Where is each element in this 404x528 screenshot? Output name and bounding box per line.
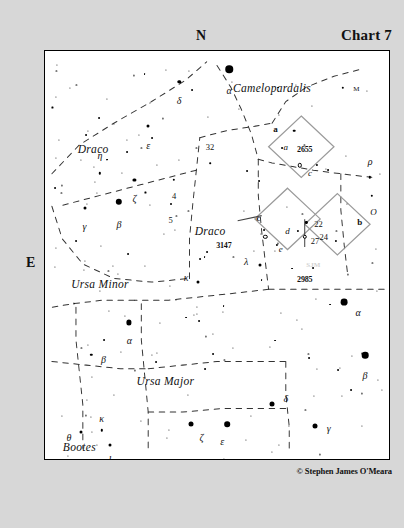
background-star (155, 362, 157, 364)
chart-vector-layer (45, 51, 389, 459)
background-star (106, 159, 108, 161)
detail-field-label-b: b (357, 217, 362, 227)
star-marker-13 (259, 264, 262, 267)
constellation-label-camelopardalis-1: Camelopardalis (233, 82, 311, 94)
star-label-19: ε (220, 435, 224, 446)
constellation-boundary-3 (189, 138, 199, 279)
background-star (191, 89, 193, 91)
field-star-label-2: e (279, 244, 283, 254)
star-marker-20 (313, 424, 318, 429)
constellation-boundary-8 (52, 300, 135, 307)
background-star (263, 229, 265, 231)
star-label-22: θ (67, 431, 72, 442)
star-marker-3 (147, 125, 150, 128)
background-star (126, 151, 128, 153)
constellation-label-ursa-minor-3: Ursa Minor (71, 278, 129, 290)
star-marker-9 (170, 203, 172, 205)
north-direction-label: N (196, 28, 206, 44)
background-star (274, 340, 276, 342)
star-label-0: α (226, 84, 231, 95)
background-star (212, 353, 214, 355)
constellation-boundary-7 (134, 289, 268, 300)
star-marker-21 (189, 422, 194, 427)
constellation-boundary-1 (217, 65, 258, 159)
field-star-label-0: c (308, 168, 312, 178)
background-star (261, 279, 263, 281)
background-star (185, 317, 187, 319)
background-star (127, 253, 129, 255)
background-star (281, 148, 283, 150)
constellation-boundary-5 (258, 159, 372, 177)
star-label-21: ζ (199, 431, 203, 442)
background-star (291, 268, 293, 270)
constellation-label-draco-0: Draco (78, 143, 109, 155)
faint-watermark: SJM (306, 261, 320, 269)
star-marker-24 (109, 443, 112, 446)
star-label-14: α (127, 334, 132, 345)
star-label-28: O (370, 207, 377, 217)
background-star (246, 170, 248, 172)
star-marker-0 (225, 66, 233, 74)
background-star (327, 169, 329, 171)
background-star (76, 240, 78, 242)
background-star (144, 73, 146, 75)
star-marker-4 (293, 129, 296, 132)
constellation-boundary-13 (286, 362, 289, 452)
star-label-27: ρ (368, 156, 373, 167)
constellation-boundary-15 (272, 69, 361, 123)
field-star-label-4: 27 (311, 236, 320, 246)
constellation-boundary-17 (76, 307, 83, 448)
constellation-boundary-0 (52, 62, 207, 174)
background-star (329, 304, 331, 306)
star-label-17: β (362, 370, 367, 381)
star-label-9: 5 (168, 215, 172, 225)
background-star (206, 251, 208, 253)
star-marker-12 (197, 280, 200, 283)
star-label-24: ι (109, 451, 112, 460)
star-label-7: ζ (132, 192, 136, 203)
star-label-3: ε (146, 139, 150, 150)
detail-field-label-a: a (273, 124, 278, 134)
star-label-10: γ (83, 221, 87, 232)
background-star (258, 180, 260, 182)
background-star (350, 389, 352, 391)
star-chart-panel: DracoCamelopardalisDracoUrsa MinorUrsa M… (44, 50, 390, 460)
star-label-23: κ (99, 413, 104, 424)
east-direction-label: E (26, 255, 35, 271)
constellation-label-draco-2: Draco (195, 225, 226, 237)
background-star (151, 137, 153, 139)
field-star-label-1: d (285, 226, 290, 236)
constellation-label-ursa-major-4: Ursa Major (137, 375, 195, 387)
star-label-12: κ (184, 272, 189, 283)
background-star (205, 368, 207, 370)
detail-field-label-c: c (256, 213, 260, 223)
background-star (85, 134, 87, 136)
background-star (199, 258, 201, 260)
chart-header: N Chart 7 (0, 0, 404, 50)
star-label-6: η (98, 150, 103, 161)
background-star (98, 117, 100, 119)
star-marker-17 (362, 352, 369, 359)
copyright-notice: © Stephen James O'Meara (297, 466, 392, 476)
page-title: Chart 7 (341, 27, 392, 44)
star-label-5: 32 (206, 142, 215, 152)
constellation-boundary-4 (200, 123, 272, 137)
field-star-label-3: 22 (314, 219, 323, 229)
ngc-object-label-3147: 3147 (216, 240, 231, 249)
background-star (277, 87, 279, 89)
constellation-boundary-14 (148, 408, 289, 412)
star-label-13: λ (244, 256, 248, 267)
background-star (54, 187, 56, 189)
ngc-object-label-2985: 2985 (297, 275, 312, 284)
constellation-boundary-18 (59, 170, 197, 206)
constellation-label-bootes-5: Bootes (63, 441, 96, 453)
background-star (103, 339, 105, 341)
star-label-20: γ (327, 423, 331, 434)
ngc-object-label-2655: 2655 (297, 144, 312, 153)
star-marker-5 (209, 162, 211, 164)
field-star-label-5: 24 (319, 232, 328, 242)
constellation-boundary-16 (341, 174, 348, 275)
star-label-11: β (116, 219, 121, 230)
star-marker-19 (225, 422, 231, 428)
star-marker-10 (83, 207, 86, 210)
